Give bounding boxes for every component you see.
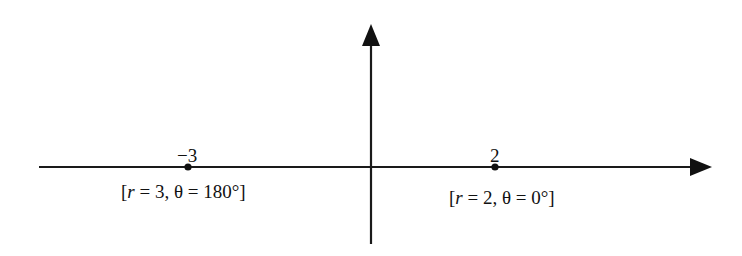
r-variable: r	[127, 181, 134, 202]
polar-coordinate-label: [r = 2, θ = 0°]	[449, 188, 555, 207]
vertical-axis-arrowhead-icon	[362, 24, 380, 46]
polar-values: = 3, θ = 180°]	[135, 181, 246, 202]
r-variable: r	[455, 187, 462, 208]
point-value-label: 2	[490, 146, 500, 165]
horizontal-axis-arrowhead-icon	[690, 158, 712, 176]
point-value-label: −3	[177, 146, 197, 165]
polar-coordinate-label: [r = 3, θ = 180°]	[121, 182, 246, 201]
polar-values: = 2, θ = 0°]	[463, 187, 555, 208]
polar-number-line-diagram	[0, 0, 742, 256]
